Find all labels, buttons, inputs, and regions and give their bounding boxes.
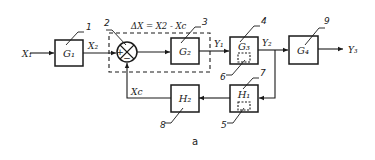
leader-8 <box>165 108 183 123</box>
signal-y2: Y₂ <box>262 38 272 48</box>
signal-y3: Y₃ <box>348 45 358 55</box>
h1-inner-element <box>238 102 250 110</box>
control-block-diagram: G₁ G₂ G₃ G₄ H₁ H₂ + − X₁ X₂ Y₁ Y₂ Y₃ Xc … <box>0 0 375 160</box>
ref-number-3: 3 <box>202 17 208 27</box>
figure-caption: a <box>192 136 198 147</box>
g4-label: G₄ <box>297 45 309 56</box>
leader-7 <box>243 78 259 89</box>
leader-4 <box>240 26 260 42</box>
signal-y1: Y₁ <box>214 39 224 49</box>
ref-number-4: 4 <box>261 16 267 26</box>
ref-number-9: 9 <box>324 16 330 26</box>
ref-number-6: 6 <box>220 72 226 82</box>
g1-label: G₁ <box>63 48 75 59</box>
ref-number-1: 1 <box>86 22 92 32</box>
ref-number-8: 8 <box>160 120 166 130</box>
g3-label: G₃ <box>238 41 250 52</box>
g2-label: G₂ <box>179 46 191 57</box>
ref-number-5: 5 <box>221 120 227 130</box>
signal-x2: X₂ <box>87 41 98 51</box>
h2-label: H₂ <box>178 93 192 104</box>
error-equation: ΔX = X2 - Xc <box>130 21 187 31</box>
signal-xc: Xc <box>130 87 142 97</box>
ref-number-7: 7 <box>260 68 266 78</box>
ref-number-2: 2 <box>104 18 110 28</box>
leader-1 <box>66 32 84 45</box>
signal-x1: X₁ <box>21 49 32 59</box>
h1-label: H₁ <box>237 89 251 100</box>
minus-sign: − <box>123 53 131 63</box>
